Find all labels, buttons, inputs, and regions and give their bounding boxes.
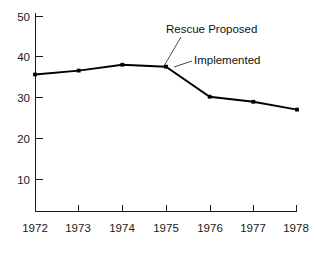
y-axis-label-30: 30 (17, 92, 30, 104)
series-markers (33, 63, 299, 112)
x-axis-label-1976: 1976 (197, 222, 223, 234)
x-axis-label-1975: 1975 (153, 222, 179, 234)
data-point-1978 (295, 108, 299, 112)
data-point-1974 (120, 63, 124, 67)
chart-figure: 50 40 30 20 10 1972 1973 1974 1975 1976 … (0, 0, 316, 257)
y-tick-labels: 50 40 30 20 10 (17, 11, 30, 186)
axis-group (36, 13, 298, 212)
rescue-proposed-leader-line (164, 37, 181, 66)
x-tick-labels: 1972 1973 1974 1975 1976 1977 1978 (22, 222, 309, 234)
y-tick-marks (36, 17, 43, 180)
annotation-labels: Rescue Proposed Implemented (166, 23, 260, 66)
data-point-1977 (251, 100, 255, 104)
annotation-leaders (164, 37, 192, 67)
data-series-group (33, 63, 299, 112)
data-point-1975 (164, 65, 168, 69)
data-point-1976 (208, 95, 212, 99)
y-axis-label-10: 10 (17, 174, 30, 186)
x-axis-label-1972: 1972 (22, 222, 48, 234)
annotation-rescue-proposed: Rescue Proposed (166, 23, 257, 35)
axis-lines (36, 13, 298, 212)
series-line (35, 65, 297, 110)
annotation-implemented: Implemented (194, 54, 260, 66)
x-axis-label-1973: 1973 (65, 222, 91, 234)
x-axis-label-1977: 1977 (240, 222, 266, 234)
y-axis-label-40: 40 (17, 51, 30, 63)
x-axis-label-1978: 1978 (283, 222, 309, 234)
implemented-leader-line (174, 61, 192, 67)
y-axis-label-20: 20 (17, 133, 30, 145)
y-axis-label-50: 50 (17, 11, 30, 23)
x-tick-marks (79, 205, 297, 212)
data-point-1973 (77, 69, 81, 73)
data-point-1972 (33, 73, 37, 77)
line-chart-plot: 50 40 30 20 10 1972 1973 1974 1975 1976 … (0, 0, 316, 257)
x-axis-label-1974: 1974 (109, 222, 135, 234)
